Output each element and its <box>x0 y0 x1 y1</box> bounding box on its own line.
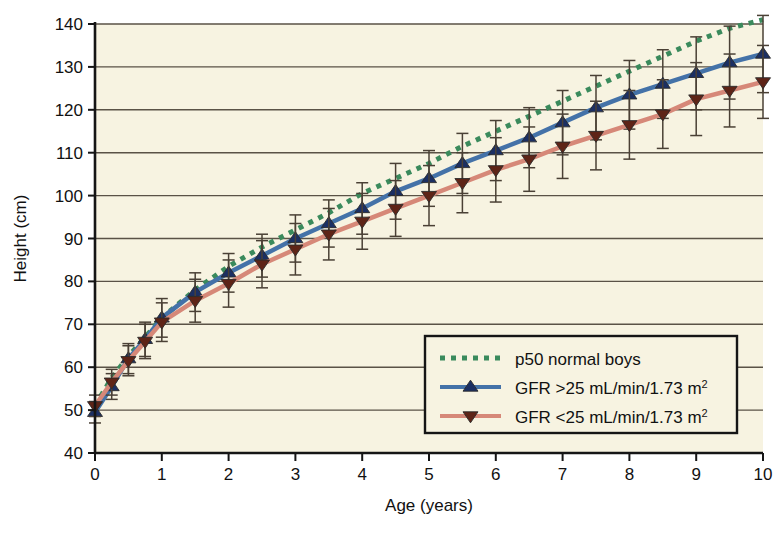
x-tick-label: 0 <box>90 465 99 484</box>
x-tick-label: 7 <box>558 465 567 484</box>
x-tick-label: 2 <box>224 465 233 484</box>
y-axis-ticks: 405060708090100110120130140 <box>55 15 95 463</box>
y-tick-label: 120 <box>55 101 83 120</box>
y-tick-label: 80 <box>64 272 83 291</box>
x-tick-label: 8 <box>625 465 634 484</box>
y-axis-title: Height (cm) <box>11 195 30 283</box>
y-tick-label: 100 <box>55 187 83 206</box>
y-tick-label: 50 <box>64 401 83 420</box>
y-tick-label: 70 <box>64 315 83 334</box>
y-tick-label: 110 <box>56 144 83 163</box>
legend-item-label: p50 normal boys <box>515 350 641 369</box>
legend-superscript: 2 <box>702 407 708 419</box>
y-tick-label: 60 <box>64 358 83 377</box>
x-tick-label: 3 <box>291 465 300 484</box>
x-tick-label: 10 <box>754 465 773 484</box>
y-tick-label: 90 <box>64 230 83 249</box>
x-tick-label: 9 <box>691 465 700 484</box>
legend-item-label: GFR <25 mL/min/1.73 m2 <box>515 407 708 427</box>
x-tick-label: 1 <box>157 465 166 484</box>
y-tick-label: 130 <box>55 58 83 77</box>
chart-figure: 405060708090100110120130140012345678910A… <box>0 0 780 533</box>
y-tick-label: 140 <box>55 15 83 34</box>
y-tick-label: 40 <box>64 444 83 463</box>
legend: p50 normal boysGFR >25 mL/min/1.73 m2GFR… <box>425 336 737 433</box>
x-tick-label: 5 <box>424 465 433 484</box>
height-vs-age-chart: 405060708090100110120130140012345678910A… <box>0 0 780 533</box>
legend-item-label: GFR >25 mL/min/1.73 m2 <box>515 378 708 398</box>
x-axis-ticks: 012345678910 <box>90 453 772 484</box>
legend-superscript: 2 <box>702 378 708 390</box>
x-axis-title: Age (years) <box>385 496 473 515</box>
x-tick-label: 6 <box>491 465 500 484</box>
x-tick-label: 4 <box>357 465 366 484</box>
